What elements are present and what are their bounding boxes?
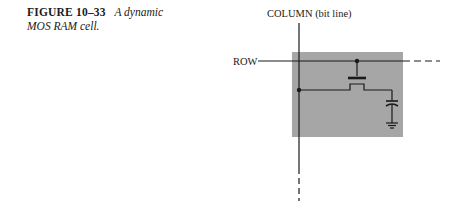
ram-cell-diagram: COLUMN (bit line) ROW [0,0,463,217]
row-label: ROW [233,56,258,67]
column-label: COLUMN (bit line) [267,8,352,20]
cell-background [292,52,403,137]
